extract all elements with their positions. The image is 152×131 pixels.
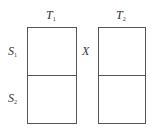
table-t1	[27, 27, 77, 124]
column-label-t1: T1	[46, 9, 56, 25]
row-label-s1: S1	[8, 45, 17, 61]
column-label-t2: T2	[116, 9, 126, 25]
cell-t2-s2	[99, 76, 145, 124]
cell-t2-s1	[99, 28, 145, 76]
row-label-s2: S2	[8, 92, 17, 108]
cell-t1-s1	[28, 28, 76, 76]
between-label-x: X	[82, 45, 89, 57]
table-t2	[98, 27, 146, 124]
cell-t1-s2	[28, 76, 76, 124]
